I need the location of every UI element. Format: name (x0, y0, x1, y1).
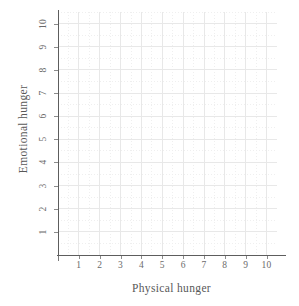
y-axis-line (58, 10, 59, 259)
y-tick-label: 6 (36, 109, 58, 123)
y-tick-label: 1 (36, 225, 58, 239)
grid-lines (58, 12, 277, 255)
x-axis-title: Physical hunger (0, 282, 299, 294)
minor-gridlines (58, 12, 277, 255)
plot-area (58, 12, 277, 255)
y-tick-label: 3 (36, 179, 58, 193)
y-tick-label: 9 (36, 40, 58, 54)
y-tick-label: 7 (36, 86, 58, 100)
y-tick-label: 5 (36, 132, 58, 146)
hunger-scatter-chart: 12345678910 12345678910 Physical hunger … (0, 0, 299, 306)
y-tick-label: 10 (36, 17, 58, 31)
y-tick-label: 4 (36, 155, 58, 169)
y-tick-label: 8 (36, 63, 58, 77)
major-gridlines (58, 12, 277, 255)
x-axis-origin-tick (58, 256, 59, 261)
x-tick-label: 10 (255, 259, 279, 271)
y-tick-label: 2 (36, 202, 58, 216)
y-axis-title: Emotional hunger (17, 29, 29, 229)
x-axis-line (57, 255, 286, 256)
